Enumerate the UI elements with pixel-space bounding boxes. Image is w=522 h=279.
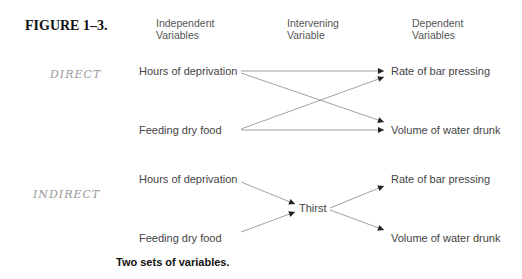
arrow-feeding-to-rate bbox=[241, 77, 384, 129]
arrow-thirst-to-volume bbox=[330, 210, 384, 230]
arrow-thirst-to-rate bbox=[330, 186, 384, 208]
arrow-hours-to-thirst bbox=[241, 182, 295, 204]
diagram-arrows bbox=[0, 0, 522, 279]
arrow-hours-to-volume bbox=[241, 73, 384, 122]
arrow-feeding-to-thirst bbox=[241, 212, 295, 232]
